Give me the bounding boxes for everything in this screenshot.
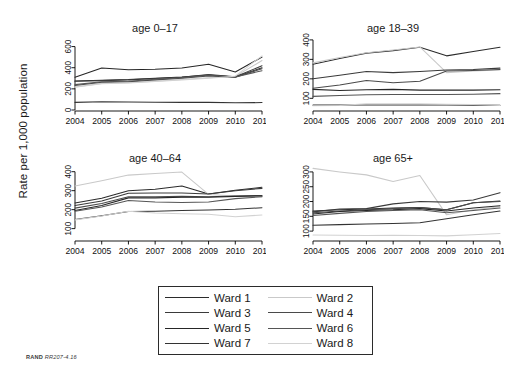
y-axis-label-text: Rate per 1,000 population	[17, 64, 29, 199]
panel-age-40-64: age 40–64 100200300400200420052006200720…	[44, 152, 266, 264]
y-tick-label: 0	[64, 107, 73, 112]
x-tick-label: 2009	[199, 116, 218, 126]
series-line-ward-6	[313, 94, 500, 97]
series-line-ward-7	[75, 102, 262, 103]
panel-age-18-39: age 18–39 100200300400200420052006200720…	[282, 22, 504, 134]
legend-line-icon	[268, 343, 312, 344]
y-axis-label: Rate per 1,000 population	[8, 26, 38, 236]
series-line-ward-5	[313, 89, 500, 90]
x-tick-label: 2004	[303, 116, 322, 126]
panel-age-0-17: age 0–17 0200400600200420052006200720082…	[44, 22, 266, 134]
legend-line-icon	[165, 312, 209, 313]
figure-root: Rate per 1,000 population age 0–17 02004…	[0, 0, 528, 385]
y-tick-label: 600	[64, 39, 73, 53]
y-tick-label: 400	[64, 164, 73, 178]
legend-label: Ward 3	[214, 307, 251, 319]
x-tick-label: 2004	[65, 116, 84, 126]
x-tick-label: 2006	[119, 246, 138, 256]
legend-label: Ward 8	[317, 337, 354, 349]
x-tick-label: 2010	[226, 246, 245, 256]
plot-area: 1001502002503002004200520062007200820092…	[282, 152, 504, 264]
legend-item-ward-3[interactable]: Ward 3	[163, 305, 266, 320]
series-line-ward-5	[75, 57, 262, 77]
legend-label: Ward 4	[317, 307, 354, 319]
plot-area: 1002003004002004200520062007200820092010…	[282, 22, 504, 134]
legend-label: Ward 2	[317, 292, 354, 304]
x-tick-label: 2006	[119, 116, 138, 126]
legend-item-ward-8[interactable]: Ward 8	[266, 336, 369, 351]
x-tick-label: 2005	[330, 116, 349, 126]
x-tick-label: 2008	[410, 116, 429, 126]
panel-age-65-plus: age 65+ 10015020025030020042005200620072…	[282, 152, 504, 264]
plot-area: 1002003004002004200520062007200820092010…	[44, 152, 266, 264]
x-tick-label: 2006	[357, 246, 376, 256]
legend-label: Ward 6	[317, 322, 354, 334]
legend-item-ward-6[interactable]: Ward 6	[266, 321, 369, 336]
y-tick-label: 300	[64, 183, 73, 197]
footer-brand: RAND	[26, 354, 43, 360]
x-tick-label: 2009	[199, 246, 218, 256]
x-tick-label: 2007	[146, 246, 165, 256]
x-tick-label: 2007	[384, 246, 403, 256]
x-tick-label: 2009	[437, 116, 456, 126]
x-tick-label: 2004	[303, 246, 322, 256]
x-tick-label: 2008	[410, 246, 429, 256]
y-tick-label: 200	[64, 202, 73, 216]
x-tick-label: 2011	[491, 116, 504, 126]
y-tick-label: 400	[64, 60, 73, 74]
legend-label: Ward 7	[214, 337, 251, 349]
y-tick-label: 100	[302, 224, 311, 238]
series-line-ward-3	[313, 68, 500, 79]
y-tick-label: 400	[302, 33, 311, 47]
y-tick-label: 100	[302, 91, 311, 105]
x-tick-label: 2011	[491, 246, 504, 256]
legend-line-icon	[268, 328, 312, 329]
x-tick-label: 2005	[92, 246, 111, 256]
x-tick-label: 2010	[226, 116, 245, 126]
legend-line-icon	[165, 297, 209, 298]
plot-area: 0200400600200420052006200720082009201020…	[44, 22, 266, 134]
series-line-ward-2	[75, 61, 262, 87]
y-tick-label: 300	[302, 52, 311, 66]
x-tick-label: 2004	[65, 246, 84, 256]
figure-footer: RAND RR207-4.16	[26, 354, 77, 360]
legend-line-icon	[165, 343, 209, 344]
y-tick-label: 100	[64, 221, 73, 235]
x-tick-label: 2007	[146, 116, 165, 126]
y-tick-label: 200	[302, 194, 311, 208]
y-tick-label: 200	[302, 72, 311, 86]
legend-item-ward-7[interactable]: Ward 7	[163, 336, 266, 351]
y-tick-label: 200	[64, 82, 73, 96]
y-tick-label: 150	[302, 209, 311, 223]
series-line-ward-8	[313, 233, 500, 235]
x-tick-label: 2008	[172, 116, 191, 126]
series-line-ward-8	[75, 211, 262, 220]
x-tick-label: 2007	[384, 116, 403, 126]
x-tick-label: 2011	[253, 246, 266, 256]
x-tick-label: 2005	[330, 246, 349, 256]
series-line-ward-2	[313, 47, 500, 73]
x-tick-label: 2008	[172, 246, 191, 256]
x-tick-label: 2010	[464, 246, 483, 256]
footer-id: RR207-4.16	[45, 354, 77, 360]
x-tick-label: 2010	[464, 116, 483, 126]
legend-line-icon	[165, 328, 209, 329]
legend-item-ward-4[interactable]: Ward 4	[266, 305, 369, 320]
legend-item-ward-2[interactable]: Ward 2	[266, 290, 369, 305]
x-tick-label: 2011	[253, 116, 266, 126]
x-tick-label: 2005	[92, 116, 111, 126]
legend-item-ward-5[interactable]: Ward 5	[163, 321, 266, 336]
x-tick-label: 2009	[437, 246, 456, 256]
legend-line-icon	[268, 297, 312, 298]
y-tick-label: 300	[302, 165, 311, 179]
x-tick-label: 2006	[357, 116, 376, 126]
legend-label: Ward 5	[214, 322, 251, 334]
legend-line-icon	[268, 312, 312, 313]
series-line-ward-1	[313, 47, 500, 64]
legend-item-ward-1[interactable]: Ward 1	[163, 290, 266, 305]
legend: Ward 1Ward 2Ward 3Ward 4Ward 5Ward 6Ward…	[158, 286, 373, 355]
legend-label: Ward 1	[214, 292, 251, 304]
y-tick-label: 250	[302, 179, 311, 193]
